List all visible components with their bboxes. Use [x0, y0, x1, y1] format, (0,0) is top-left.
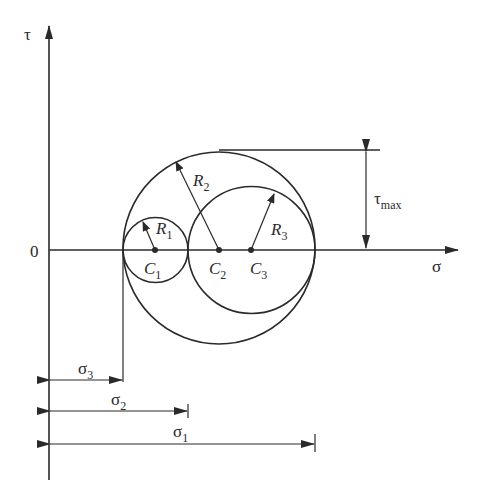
tau-max-label: τmax: [374, 189, 402, 212]
mohr-circle-diagram: τ σ 0 R1 R2 R3 C1 C2 C3 τmax σ3 σ2 σ1: [0, 0, 481, 483]
tau-axis-label: τ: [24, 25, 31, 44]
origin-label: 0: [30, 242, 39, 261]
sigma2-label: σ2: [111, 390, 126, 413]
c1-label: C1: [144, 259, 161, 282]
r1-label: R1: [155, 219, 172, 242]
sigma-axis-label: σ: [432, 257, 441, 276]
c3-label: C3: [250, 259, 267, 282]
sigma1-label: σ1: [173, 422, 188, 445]
radius-r1-arrow: [143, 222, 155, 250]
r2-label: R2: [192, 171, 209, 194]
sigma3-label: σ3: [78, 359, 93, 382]
r3-label: R3: [270, 220, 287, 243]
c2-label: C2: [209, 259, 226, 282]
